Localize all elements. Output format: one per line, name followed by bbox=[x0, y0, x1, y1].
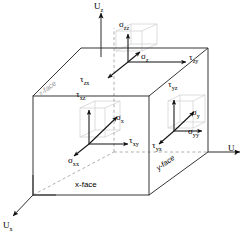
sigma-xx-arrow bbox=[74, 144, 89, 156]
diagram-canvas bbox=[0, 0, 250, 241]
axis-ux-arrow bbox=[13, 195, 33, 216]
label-sigma-zz: σzz bbox=[119, 20, 129, 29]
axis-lines bbox=[13, 13, 240, 216]
axis-label-uy: Uy bbox=[228, 144, 238, 153]
tau-zx-arrow bbox=[108, 62, 128, 78]
label-tau-xz: τxz bbox=[76, 90, 85, 99]
label-tau-yx: τyx bbox=[152, 141, 162, 150]
label-sigma-z: σz bbox=[141, 52, 149, 61]
axis-label-uz: Uz bbox=[94, 2, 103, 11]
label-tau-zx: τzx bbox=[80, 75, 89, 84]
label-x-face: x-face bbox=[75, 181, 97, 189]
label-tau-zy: τzy bbox=[189, 53, 198, 62]
label-tau-xy: τxy bbox=[129, 136, 139, 145]
label-sigma-x: σx bbox=[116, 113, 124, 122]
label-tau-yz: τyz bbox=[168, 80, 177, 89]
axis-label-ux: Ux bbox=[3, 221, 13, 230]
sigma-z-arrow bbox=[128, 52, 140, 62]
label-sigma-xx: σxx bbox=[68, 156, 79, 165]
stress-element-figure: Uz Uy Ux σzz σz τzy τzx τxz σx τxy σxx τ… bbox=[0, 0, 250, 241]
label-sigma-y: σy bbox=[192, 108, 200, 117]
label-sigma-yy: σyy bbox=[188, 127, 199, 136]
